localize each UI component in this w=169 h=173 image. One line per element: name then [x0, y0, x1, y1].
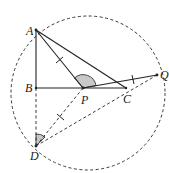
point-B [35, 87, 37, 89]
label-D: D [29, 149, 39, 163]
point-P [82, 87, 85, 90]
point-A [35, 29, 38, 32]
point-C [125, 87, 127, 89]
point-Q [156, 74, 159, 77]
label-B: B [25, 81, 33, 95]
point-D [35, 145, 38, 148]
segment-AP [36, 30, 83, 88]
label-C: C [123, 92, 132, 106]
label-P: P [80, 93, 89, 107]
label-A: A [25, 24, 34, 38]
geometry-diagram: A B P C Q D [0, 0, 169, 173]
label-Q: Q [160, 68, 169, 82]
segment-PD [36, 88, 83, 146]
